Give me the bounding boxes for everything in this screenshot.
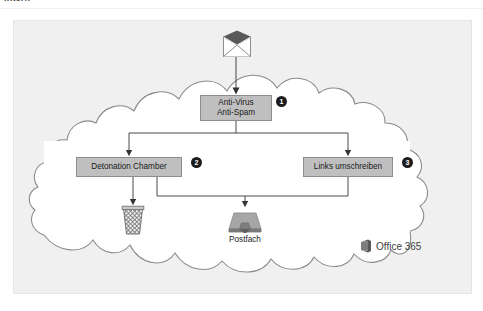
- node-links-umschreiben-label: Links umschreiben: [314, 162, 382, 173]
- office-365-brand: Office 365: [360, 239, 421, 253]
- trash-can-icon: [120, 205, 146, 235]
- diagram-canvas: Anti-Virus Anti-Spam 1 Detonation Chambe…: [13, 20, 472, 294]
- postfach-label: Postfach: [210, 235, 280, 244]
- office-365-label: Office 365: [376, 241, 421, 252]
- header-divider: [0, 8, 483, 9]
- office-logo-icon: [360, 239, 372, 253]
- step-marker-1: 1: [276, 96, 287, 107]
- inbox-tray-icon: [227, 207, 263, 233]
- cut-off-heading: Intern: [4, 0, 30, 3]
- node-detonation-chamber-label: Detonation Chamber: [91, 162, 167, 173]
- screenshot-root: Intern: [0, 0, 483, 311]
- step-marker-2: 2: [191, 157, 202, 168]
- step-marker-3: 3: [402, 157, 413, 168]
- envelope-icon: [220, 30, 254, 58]
- node-detonation-chamber[interactable]: Detonation Chamber: [76, 157, 182, 177]
- node-anti-virus-line1: Anti-Virus: [218, 98, 253, 109]
- node-links-umschreiben[interactable]: Links umschreiben: [303, 157, 393, 177]
- node-anti-virus-anti-spam[interactable]: Anti-Virus Anti-Spam: [200, 95, 272, 121]
- node-anti-virus-line2: Anti-Spam: [217, 108, 255, 119]
